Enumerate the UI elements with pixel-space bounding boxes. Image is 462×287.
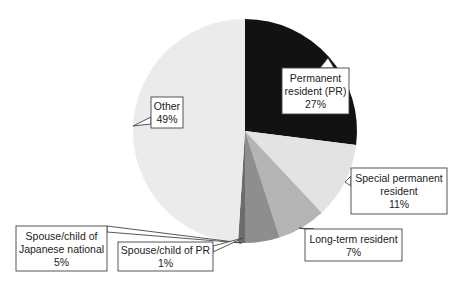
callout-label: Other (154, 100, 181, 112)
callout-percent: 7% (346, 246, 361, 258)
pie-slice-other (133, 19, 245, 243)
pie-chart: Permanentresident (PR)27%Special permane… (0, 0, 462, 287)
callout-label: Spouse/child of PR (121, 244, 211, 256)
callout-percent: 49% (156, 113, 177, 125)
callout-long-term-resident: Long-term resident7% (299, 228, 402, 261)
callout-percent: 27% (305, 98, 326, 110)
callout-spouse-child-of-pr: Spouse/child of PR1% (118, 238, 243, 271)
callout-label: Japanese national (19, 243, 104, 255)
callout-special-permanent-resident: Special permanentresident11% (345, 168, 447, 214)
callout-label: resident (380, 185, 417, 197)
callout-label: Special permanent (355, 172, 443, 184)
callout-label: Permanent (290, 72, 341, 84)
callout-percent: 5% (54, 256, 69, 268)
callout-label: resident (PR) (285, 85, 347, 97)
callout-percent: 1% (158, 257, 173, 269)
callout-label: Spouse/child of (26, 230, 98, 242)
callout-label: Long-term resident (309, 233, 397, 245)
callout-percent: 11% (389, 198, 409, 210)
pie-slices (133, 19, 357, 243)
